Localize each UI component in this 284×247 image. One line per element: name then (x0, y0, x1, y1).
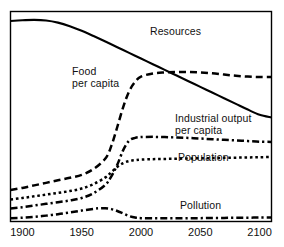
x-tick-label-2100: 2100 (247, 226, 271, 238)
series-label-resources: Resources (150, 26, 201, 38)
series-label-food-line1: Food (72, 66, 119, 78)
x-tick-label-1900: 1900 (10, 226, 34, 238)
series-label-pollution-line1: Pollution (180, 200, 221, 212)
series-label-pollution: Pollution (180, 200, 221, 212)
series-label-industrial-line1: Industrial output (175, 113, 251, 125)
x-tick-label-2050: 2050 (188, 226, 212, 238)
series-label-industrial-output-per-capita: Industrial output per capita (175, 113, 251, 136)
series-label-resources-line1: Resources (150, 26, 201, 38)
series-label-food-line2: per capita (72, 78, 119, 90)
chart-figure: Resources Food per capita Industrial out… (0, 0, 284, 247)
series-label-industrial-line2: per capita (175, 125, 251, 137)
series-label-population: Population (178, 152, 229, 164)
series-label-food-per-capita: Food per capita (72, 66, 119, 89)
series-label-population-line1: Population (178, 152, 229, 164)
x-tick-label-2000: 2000 (129, 226, 153, 238)
x-tick-label-1950: 1950 (69, 226, 93, 238)
